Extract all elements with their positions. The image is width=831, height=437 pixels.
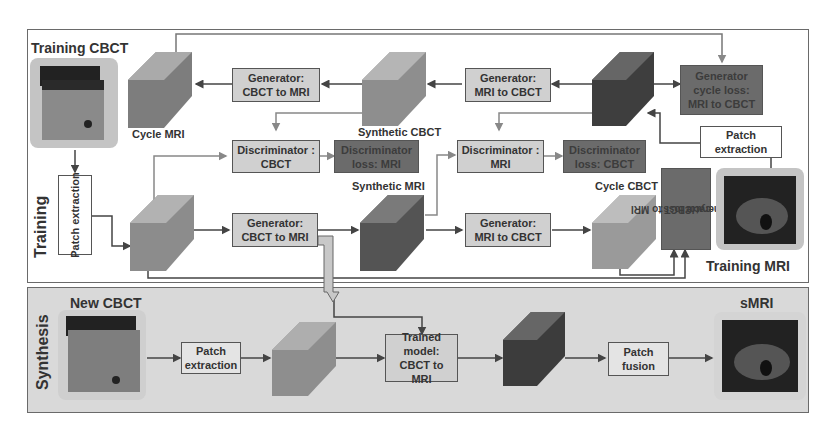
generator-cbct-to-mri-top: Generator:CBCT to MRI bbox=[232, 68, 320, 102]
mri-patch-volume bbox=[592, 52, 654, 126]
new-cbct-image bbox=[58, 310, 146, 400]
discriminator-cbct: Discriminator :CBCT bbox=[232, 140, 320, 173]
training-mri-image bbox=[716, 168, 804, 250]
new-cbct-label: New CBCT bbox=[70, 295, 142, 311]
generator-cbct-to-mri-bottom: Generator:CBCT to MRI bbox=[232, 213, 318, 247]
discriminator-mri: Discriminator :MRI bbox=[457, 140, 544, 173]
patch-extraction-cbct: Patch extraction bbox=[58, 175, 92, 255]
synthesis-patch-extraction: Patch extraction bbox=[181, 342, 241, 374]
generator-mri-to-cbct-bottom: Generator:MRI to CBCT bbox=[465, 213, 551, 247]
training-cbct-image bbox=[30, 58, 118, 148]
discriminator-loss-cbct: Discriminatorloss: CBCT bbox=[563, 140, 646, 173]
trained-model-cbct-to-mri: Trainedmodel:CBCT to MRI bbox=[385, 334, 458, 382]
synthetic-mri-label: Synthetic MRI bbox=[352, 180, 425, 192]
synthetic-cbct-volume bbox=[362, 52, 426, 126]
patch-extraction-mri: Patch extraction bbox=[700, 126, 782, 158]
smri-image bbox=[714, 312, 806, 400]
cycle-mri-volume bbox=[128, 52, 192, 128]
cbct-patch-volume bbox=[130, 195, 194, 271]
generator-cycle-loss-mri-to-cbct: Generatorcycle loss:MRI to CBCT bbox=[680, 65, 763, 115]
synthetic-mri-volume bbox=[360, 195, 424, 271]
generator-mri-to-cbct-top: Generator:MRI to CBCT bbox=[465, 68, 551, 102]
training-section-label: Training bbox=[32, 196, 50, 258]
training-mri-label: Training MRI bbox=[706, 258, 790, 274]
smri-label: sMRI bbox=[740, 295, 773, 311]
patch-fusion: Patch fusion bbox=[608, 342, 669, 376]
cycle-mri-label: Cycle MRI bbox=[132, 128, 185, 140]
discriminator-loss-mri: Discriminatorloss: MRI bbox=[334, 140, 419, 173]
generator-cycle-loss-cbct-to-mri: Generatorcycle loss:CBCT to MRI bbox=[661, 168, 711, 250]
synthesis-section-label: Synthesis bbox=[34, 314, 52, 390]
synthesis-cbct-patch-volume bbox=[272, 322, 336, 396]
cycle-cbct-label: Cycle CBCT bbox=[595, 180, 658, 192]
training-cbct-label: Training CBCT bbox=[31, 40, 128, 56]
synthesis-mri-patch-volume bbox=[503, 312, 565, 386]
synthetic-cbct-label: Synthetic CBCT bbox=[358, 126, 441, 138]
